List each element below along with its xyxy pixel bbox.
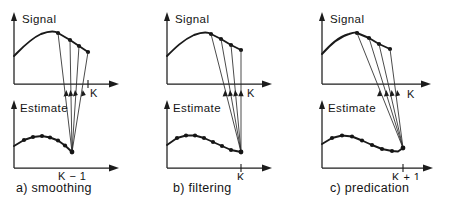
- estimate-x-axis-arrowhead: [423, 165, 433, 172]
- estimate-data-point: [360, 138, 364, 142]
- signal-y-axis-arrowhead: [319, 12, 325, 21]
- estimate-data-point: [390, 149, 394, 153]
- signal-axis-title: Signal: [22, 13, 56, 25]
- estimate-axis-title: Estimate: [173, 102, 221, 114]
- signal-curve-rising: [14, 32, 58, 56]
- signal-axis-title: Signal: [330, 13, 364, 25]
- signal-x-axis-arrowhead: [421, 81, 431, 88]
- panel-caption-b: b) filtering: [151, 181, 325, 195]
- estimate-axis-title: Estimate: [20, 102, 68, 114]
- signal-curve-falling: [357, 33, 390, 49]
- estimate-data-point: [211, 140, 215, 144]
- estimate-axis-tick-label: K: [237, 171, 245, 180]
- panel-predication: K K + 1 Signal Estimate c) predic: [304, 0, 456, 208]
- signal-curve-falling: [58, 33, 88, 52]
- panel-b-plot: K K Signal Estimate: [151, 0, 303, 180]
- panel-filtering: K K Signal Estimate b) filtering: [151, 0, 303, 208]
- estimate-data-point: [229, 148, 233, 152]
- estimate-convergence-point: [239, 150, 244, 155]
- estimate-data-point: [48, 135, 52, 139]
- projection-ray: [72, 46, 79, 152]
- estimate-y-axis-arrowhead: [11, 100, 17, 109]
- signal-axis-title: Signal: [175, 13, 209, 25]
- signal-axis-tick-label: K: [90, 87, 98, 99]
- ray-arrowhead: [64, 90, 69, 97]
- estimate-data-point: [350, 134, 354, 138]
- estimate-data-point: [22, 138, 26, 142]
- estimate-convergence-point: [401, 146, 406, 151]
- estimate-data-point: [370, 143, 374, 147]
- estimate-curve: [322, 136, 403, 152]
- estimate-x-axis-arrowhead: [262, 165, 272, 172]
- ray-arrowhead: [384, 90, 389, 96]
- panel-a-plot: K K − 1 Signal Estimate: [0, 0, 152, 180]
- estimate-data-point: [340, 133, 344, 137]
- estimate-data-point: [63, 143, 67, 147]
- signal-axis-tick-label: K: [407, 88, 415, 100]
- estimate-data-point: [380, 147, 384, 151]
- signal-axis-tick-label: K: [247, 87, 255, 99]
- estimate-data-point: [31, 135, 35, 139]
- estimate-data-point: [193, 133, 197, 137]
- signal-curve-rising: [167, 33, 211, 56]
- panel-c-plot: K K + 1 Signal Estimate: [304, 0, 458, 180]
- estimate-axis-tick-label: K − 1: [58, 170, 87, 180]
- estimate-convergence-point: [70, 150, 75, 155]
- panel-caption-c: c) predication: [304, 181, 458, 195]
- estimate-y-axis-arrowhead: [319, 100, 325, 109]
- estimate-y-axis-arrowhead: [164, 100, 170, 109]
- projection-ray: [72, 52, 88, 152]
- estimate-data-point: [202, 136, 206, 140]
- signal-x-axis-arrowhead: [262, 81, 272, 88]
- signal-curve-falling: [211, 34, 241, 50]
- ray-arrowhead: [68, 90, 73, 97]
- panel-smoothing: K K − 1 Signal Estimate a): [0, 0, 152, 208]
- signal-x-axis-arrowhead: [109, 81, 119, 88]
- estimate-data-point: [175, 136, 179, 140]
- estimate-data-point: [40, 134, 44, 138]
- estimate-data-point: [330, 136, 334, 140]
- projection-rays-c: [357, 33, 403, 148]
- signal-curve-rising: [322, 32, 358, 54]
- panel-caption-a: a) smoothing: [0, 181, 168, 195]
- estimate-data-point: [220, 144, 224, 148]
- estimate-axis-title: Estimate: [328, 102, 376, 114]
- signal-y-axis-arrowhead: [164, 12, 170, 21]
- ray-arrowhead: [238, 90, 243, 96]
- projection-rays-b: [211, 34, 244, 152]
- signal-y-axis-arrowhead: [11, 12, 17, 21]
- estimate-data-point: [56, 138, 60, 142]
- estimate-axis-tick-label: K + 1: [392, 171, 421, 180]
- estimate-x-axis-arrowhead: [109, 165, 119, 172]
- ray-arrowhead: [73, 90, 78, 97]
- projection-rays-a: [58, 33, 88, 152]
- projection-ray: [231, 45, 241, 152]
- estimate-data-point: [184, 133, 188, 137]
- figure-canvas: K K − 1 Signal Estimate a): [0, 0, 458, 208]
- ray-arrowhead: [228, 90, 233, 97]
- ray-arrowhead: [223, 90, 228, 97]
